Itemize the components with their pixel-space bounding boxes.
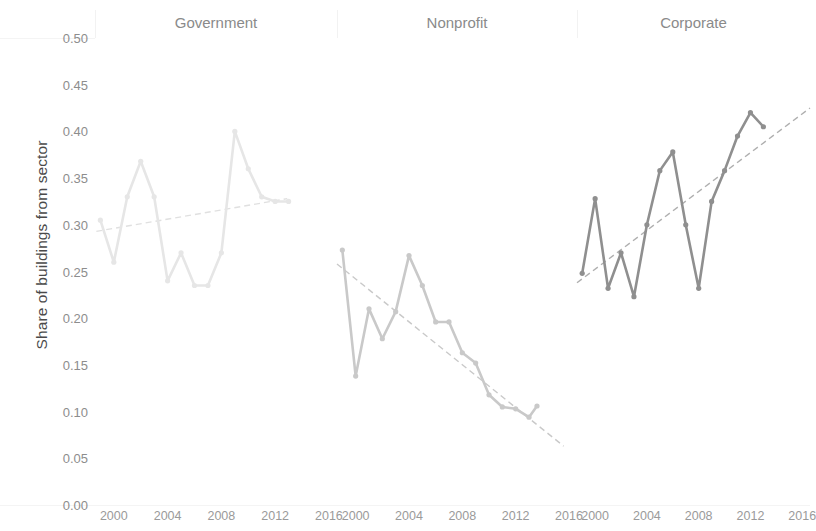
x-tick-label: 2012	[502, 509, 530, 523]
data-point-marker	[192, 283, 197, 288]
panel-corporate	[577, 38, 810, 505]
data-point-marker	[644, 222, 649, 227]
data-line-nonprofit	[342, 250, 537, 417]
data-point-marker	[340, 247, 345, 252]
x-tick-label: 2008	[448, 509, 476, 523]
y-axis-tick-labels: 0.500.450.400.350.300.250.200.150.100.05…	[32, 0, 88, 531]
y-tick-label: 0.35	[36, 171, 88, 186]
data-point-marker	[138, 159, 143, 164]
data-point-marker	[259, 194, 264, 199]
data-point-marker	[460, 350, 465, 355]
panel-nonprofit	[337, 38, 577, 505]
data-point-marker	[353, 374, 358, 379]
data-point-marker	[534, 403, 539, 408]
data-point-marker	[152, 194, 157, 199]
data-point-marker	[735, 133, 740, 138]
x-axis-ticks-nonprofit: 20002004200820122016	[337, 509, 577, 529]
x-tick-label: 2000	[342, 509, 370, 523]
data-point-marker	[286, 199, 291, 204]
y-tick-label: 0.15	[36, 357, 88, 372]
panel-government	[95, 38, 337, 505]
x-tick-label: 2012	[737, 509, 765, 523]
x-tick-label: 2016	[788, 509, 816, 523]
panel-title-government: Government	[95, 10, 337, 36]
x-tick-label: 2008	[685, 509, 713, 523]
plot-bottom-rule	[0, 505, 810, 506]
data-point-marker	[657, 168, 662, 173]
data-point-marker	[500, 404, 505, 409]
y-tick-label: 0.50	[36, 31, 88, 46]
y-tick-label: 0.10	[36, 404, 88, 419]
x-tick-label: 2004	[154, 509, 182, 523]
data-point-marker	[696, 286, 701, 291]
data-point-marker	[748, 110, 753, 115]
x-tick-label: 2004	[395, 509, 423, 523]
data-point-marker	[593, 196, 598, 201]
x-tick-label: 2004	[633, 509, 661, 523]
x-tick-label: 2008	[207, 509, 235, 523]
y-tick-label: 0.40	[36, 124, 88, 139]
data-point-marker	[433, 319, 438, 324]
x-tick-label: 2000	[100, 509, 128, 523]
series-plot-government	[95, 38, 337, 505]
data-point-marker	[205, 283, 210, 288]
data-point-marker	[722, 168, 727, 173]
panel-title-corporate: Corporate	[577, 10, 810, 36]
data-point-marker	[761, 124, 766, 129]
series-plot-corporate	[577, 38, 810, 505]
data-point-marker	[219, 250, 224, 255]
data-point-marker	[165, 278, 170, 283]
data-point-marker	[98, 218, 103, 223]
series-plot-nonprofit	[337, 38, 577, 505]
data-point-marker	[366, 306, 371, 311]
x-axis-ticks-government: 20002004200820122016	[95, 509, 337, 529]
data-point-marker	[473, 360, 478, 365]
data-point-marker	[420, 283, 425, 288]
y-tick-label: 0.30	[36, 217, 88, 232]
data-point-marker	[178, 250, 183, 255]
data-point-marker	[406, 253, 411, 258]
y-tick-label: 0.25	[36, 264, 88, 279]
data-point-marker	[393, 309, 398, 314]
data-line-government	[100, 131, 288, 285]
data-point-marker	[380, 336, 385, 341]
data-point-marker	[670, 149, 675, 154]
data-line-corporate	[582, 113, 763, 297]
data-point-marker	[709, 199, 714, 204]
y-tick-label: 0.05	[36, 451, 88, 466]
y-tick-label: 0.45	[36, 77, 88, 92]
data-point-marker	[232, 129, 237, 134]
y-tick-label: 0.00	[36, 498, 88, 513]
panel-title-nonprofit: Nonprofit	[337, 10, 577, 36]
data-point-marker	[125, 194, 130, 199]
data-point-marker	[580, 271, 585, 276]
data-point-marker	[631, 294, 636, 299]
data-point-marker	[486, 392, 491, 397]
data-point-marker	[273, 199, 278, 204]
data-point-marker	[526, 415, 531, 420]
data-point-marker	[683, 222, 688, 227]
x-tick-label: 2012	[261, 509, 289, 523]
x-tick-label: 2000	[581, 509, 609, 523]
x-axis-ticks-corporate: 20002004200820122016	[577, 509, 810, 529]
y-tick-label: 0.20	[36, 311, 88, 326]
data-point-marker	[446, 319, 451, 324]
data-point-marker	[246, 166, 251, 171]
data-point-marker	[513, 406, 518, 411]
data-point-marker	[605, 286, 610, 291]
data-point-marker	[111, 260, 116, 265]
data-point-marker	[618, 250, 623, 255]
